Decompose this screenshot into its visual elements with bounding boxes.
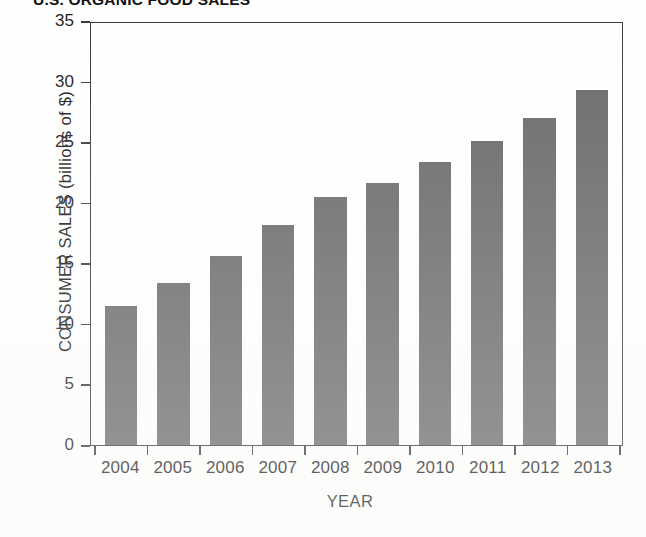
- x-tick-mark: [567, 446, 569, 455]
- y-tick-mark: [81, 203, 90, 205]
- bar-slot: [461, 23, 513, 445]
- y-tick-label: 30: [55, 72, 74, 92]
- y-tick-mark: [81, 324, 90, 326]
- x-tick-mark: [304, 446, 306, 455]
- y-tick-label: 5: [65, 374, 74, 394]
- x-tick-mark: [94, 446, 96, 455]
- bar-series: [91, 23, 622, 445]
- x-axis-label-2004: 2004: [94, 458, 147, 478]
- y-tick-mark: [81, 82, 90, 84]
- y-tick-mark: [81, 263, 90, 265]
- bar-2013: [576, 90, 608, 445]
- y-tick-mark: [81, 142, 90, 144]
- x-tick-mark: [409, 446, 411, 455]
- x-axis-label-2009: 2009: [357, 458, 410, 478]
- y-tick-mark: [81, 384, 90, 386]
- bar-slot: [304, 23, 356, 445]
- x-axis-label-2013: 2013: [567, 458, 620, 478]
- chart-title: U.S. ORGANIC FOOD SALES: [33, 0, 250, 9]
- y-tick-mark: [81, 445, 90, 447]
- y-tick-label: 15: [55, 253, 74, 273]
- x-tick-mark: [252, 446, 254, 455]
- bar-slot: [513, 23, 565, 445]
- bar-2004: [105, 306, 137, 445]
- bar-slot: [409, 23, 461, 445]
- x-axis-label-2010: 2010: [409, 458, 462, 478]
- x-axis-label-2011: 2011: [462, 458, 515, 478]
- x-tick-mark: [619, 446, 621, 455]
- x-tick-mark: [199, 446, 201, 455]
- bar-2008: [314, 197, 346, 445]
- bar-2010: [419, 162, 451, 445]
- x-tick-mark: [147, 446, 149, 455]
- x-tick-mark: [357, 446, 359, 455]
- x-axis-label-2005: 2005: [147, 458, 200, 478]
- x-axis-label-2008: 2008: [304, 458, 357, 478]
- bar-slot: [147, 23, 199, 445]
- x-axis-labels: 2004200520062007200820092010201120122013: [90, 458, 623, 478]
- bar-slot: [200, 23, 252, 445]
- bar-2009: [366, 183, 398, 445]
- bar-slot: [356, 23, 408, 445]
- x-axis-label-2012: 2012: [514, 458, 567, 478]
- y-tick-label: 10: [55, 314, 74, 334]
- x-tick-mark: [514, 446, 516, 455]
- plot-area: [90, 22, 623, 446]
- bar-2005: [157, 283, 189, 445]
- y-tick-label: 20: [55, 193, 74, 213]
- bar-2012: [523, 118, 555, 445]
- bar-slot: [252, 23, 304, 445]
- bar-2006: [210, 256, 242, 445]
- chart-figure: U.S. ORGANIC FOOD SALES CONSUMER SALES (…: [0, 0, 646, 537]
- y-tick-label: 25: [55, 132, 74, 152]
- x-axis-label-2007: 2007: [252, 458, 305, 478]
- bar-2007: [262, 225, 294, 445]
- x-tick-mark: [462, 446, 464, 455]
- bar-slot: [95, 23, 147, 445]
- y-tick-label: 0: [65, 435, 74, 455]
- x-axis-label-2006: 2006: [199, 458, 252, 478]
- bar-slot: [566, 23, 618, 445]
- bar-2011: [471, 141, 503, 445]
- y-tick-label: 35: [55, 11, 74, 31]
- y-tick-mark: [81, 21, 90, 23]
- x-axis-title: YEAR: [70, 492, 630, 511]
